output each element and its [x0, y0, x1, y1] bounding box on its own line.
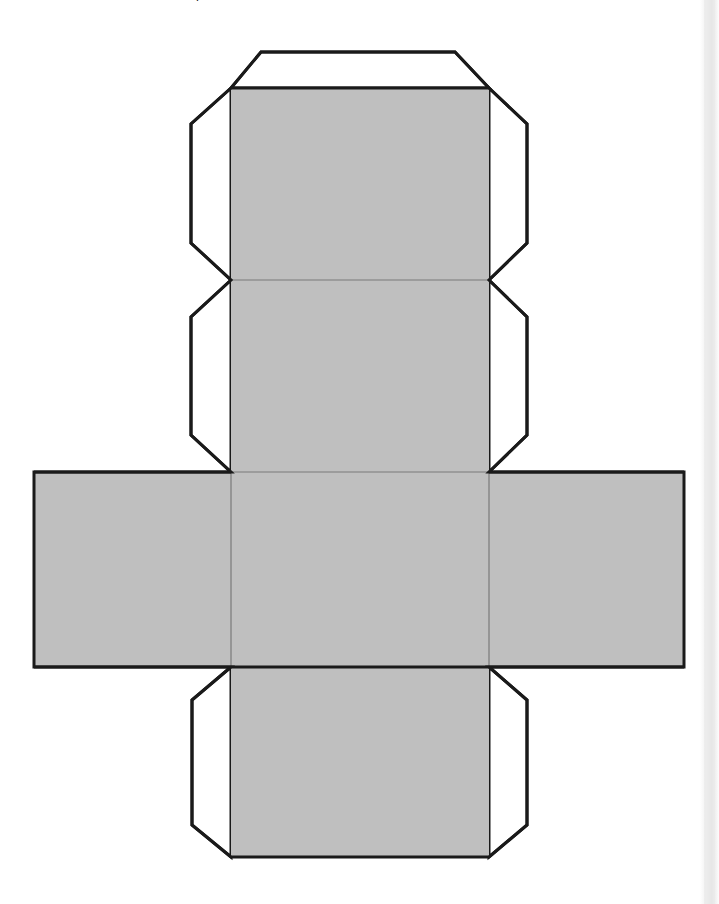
cube-face-left [34, 472, 231, 667]
cube-face-bottom [231, 667, 489, 857]
cube-face-center [231, 472, 489, 667]
vertical-scrollbar[interactable] [700, 0, 719, 904]
cube-face-top [231, 88, 489, 280]
right-tab-row-2 [489, 280, 527, 472]
scrollbar-thumb[interactable] [704, 0, 715, 904]
cube-face-right [489, 472, 684, 667]
top-glue-flap [231, 52, 489, 88]
page-root: p [0, 0, 719, 904]
left-tab-row-2 [191, 280, 231, 472]
cube-net-diagram [0, 0, 719, 904]
cube-face-upper-middle [231, 280, 489, 472]
